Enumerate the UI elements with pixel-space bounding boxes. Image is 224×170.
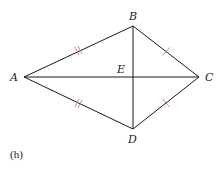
vertex-label-d: D bbox=[127, 133, 137, 146]
vertex-label-c: C bbox=[205, 71, 214, 84]
single-tick-bc bbox=[163, 48, 170, 56]
vertex-label-b: B bbox=[128, 10, 137, 23]
vertex-label-e: E bbox=[116, 63, 125, 76]
single-tick-cd bbox=[163, 99, 170, 107]
kite-diagram: A B C D E (h) bbox=[0, 0, 224, 170]
figure-caption: (h) bbox=[10, 148, 23, 161]
vertex-label-a: A bbox=[9, 71, 18, 84]
segment-da bbox=[24, 77, 133, 129]
